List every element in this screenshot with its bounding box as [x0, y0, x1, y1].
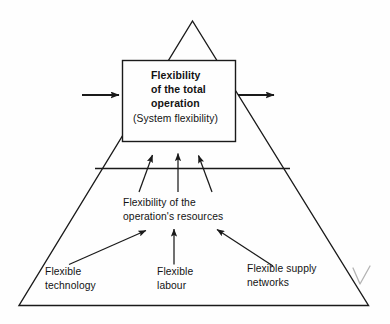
resource-to-system-arrows: [139, 154, 212, 193]
base-to-resource-arrows: [69, 229, 273, 266]
base-label-flexible-technology: Flexible technology: [45, 265, 96, 292]
system-flexibility-title: Flexibility of the total operation: [151, 68, 206, 110]
system-flexibility-subtitle: (System flexibility): [133, 113, 218, 125]
handwritten-check-mark-annotation: [353, 266, 370, 284]
flexibility-pyramid-diagram: Flexibility of the total operation (Syst…: [0, 0, 390, 324]
operation-resources-label: Flexibility of the operation's resources: [123, 196, 223, 223]
base-label-flexible-labour: Flexible labour: [157, 265, 193, 292]
base-label-flexible-supply-networks: Flexible supply networks: [247, 262, 317, 289]
